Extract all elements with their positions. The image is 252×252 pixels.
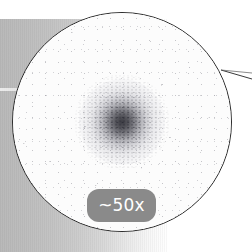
zoom-level-badge[interactable]: ~50x bbox=[87, 189, 156, 222]
zoom-level-label: ~50x bbox=[98, 197, 145, 214]
magnifier-view: ~50x bbox=[0, 0, 252, 252]
specimen-blob-grain bbox=[74, 74, 170, 170]
